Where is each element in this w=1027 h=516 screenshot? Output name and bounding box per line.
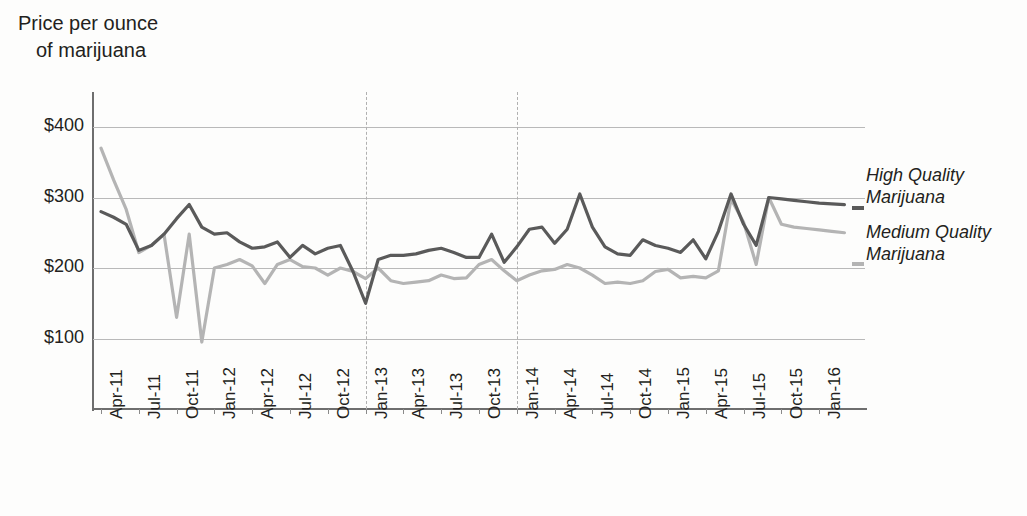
y-axis-tick-100: $100 [12,327,84,348]
legend-swatch-medium-quality [852,262,864,266]
x-tick-mark-jan-16 [819,409,820,414]
x-tick-mark-apr-11 [101,409,102,414]
x-tick-mark-apr-14 [555,409,556,414]
x-axis-tick-jul-12: Jul-12 [296,373,316,419]
x-tick-mark-jul-12 [290,409,291,414]
x-tick-mark-apr-15 [706,409,707,414]
plot-area [93,92,865,409]
x-tick-mark-jan-12 [214,409,215,414]
x-tick-mark-apr-12 [252,409,253,414]
x-axis-tick-apr-12: Apr-12 [258,368,278,419]
x-axis-tick-oct-14: Oct-14 [636,368,656,419]
x-axis-tick-oct-15: Oct-15 [787,368,807,419]
x-axis-tick-jan-14: Jan-14 [523,367,543,419]
x-tick-mark-jan-13 [366,409,367,414]
x-tick-mark-jan-15 [668,409,669,414]
chart-title-line1: Price per ounce [18,12,158,34]
x-axis-tick-oct-12: Oct-12 [334,368,354,419]
chart-title: Price per ounce of marijuana [18,10,158,64]
legend-high-line1: High Quality [866,165,964,185]
x-axis-tick-jan-13: Jan-13 [372,367,392,419]
x-axis-tick-jul-11: Jul-11 [145,374,165,419]
x-axis-tick-apr-14: Apr-14 [561,368,581,419]
x-tick-mark-oct-12 [328,409,329,414]
x-tick-mark-oct-13 [479,409,480,414]
x-tick-mark-jul-14 [592,409,593,414]
x-tick-mark-jul-15 [744,409,745,414]
legend-entry-medium-quality: Medium Quality Marijuana [866,221,1026,265]
chart-legend: High Quality Marijuana Medium Quality Ma… [866,164,1026,265]
x-axis-tick-jan-12: Jan-12 [220,367,240,419]
y-axis-tick-200: $200 [12,256,84,277]
x-tick-mark-oct-15 [781,409,782,414]
series-line-medium-quality-marijuana [101,148,844,342]
legend-entry-high-quality: High Quality Marijuana [866,164,1026,208]
x-tick-mark-apr-13 [403,409,404,414]
x-tick-mark-oct-14 [630,409,631,414]
x-axis-tick-jul-15: Jul-15 [750,373,770,419]
x-axis-tick-apr-11: Apr-11 [107,369,127,419]
x-axis-tick-jan-16: Jan-16 [825,367,845,419]
y-axis-tick-400: $400 [12,115,84,136]
legend-high-line2: Marijuana [866,187,945,207]
x-tick-mark-jan-14 [517,409,518,414]
x-axis-tick-apr-13: Apr-13 [409,368,429,419]
x-axis-tick-jul-14: Jul-14 [598,373,618,419]
series-paths [93,92,865,409]
legend-swatch-high-quality [852,206,864,210]
x-axis-tick-apr-15: Apr-15 [712,368,732,419]
legend-medium-line2: Marijuana [866,244,945,264]
legend-medium-line1: Medium Quality [866,222,991,242]
chart-title-line2: of marijuana [18,37,158,64]
x-tick-mark-oct-11 [177,409,178,414]
x-tick-mark-jul-11 [139,409,140,414]
x-axis-tick-oct-11: Oct-11 [183,369,203,419]
x-axis-tick-oct-13: Oct-13 [485,368,505,419]
chart-canvas: Price per ounce of marijuana $400 $300 $… [0,0,1027,516]
x-axis-tick-jul-13: Jul-13 [447,373,467,419]
x-axis-tick-jan-15: Jan-15 [674,367,694,419]
x-tick-mark-jul-13 [441,409,442,414]
y-axis-tick-300: $300 [12,186,84,207]
